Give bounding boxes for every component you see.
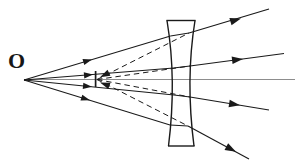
emergent-ray-1: [189, 9, 269, 33]
incident-ray-2-arrowhead: [84, 72, 93, 79]
incident-ray-1: [24, 36, 171, 80]
object-point-label: O: [8, 50, 25, 72]
incident-ray-3-arrowhead: [83, 83, 93, 90]
emergent-ray-4-arrowhead: [225, 143, 238, 155]
emergent-rays-group: [188, 9, 284, 159]
emergent-ray-1-arrowhead: [229, 15, 242, 25]
emergent-ray-4: [188, 126, 249, 159]
virtual-ray-4: [97, 80, 188, 127]
incident-ray-4: [24, 80, 170, 125]
ray-diagram-canvas: [0, 0, 295, 161]
incident-ray-3: [24, 80, 174, 95]
incident-ray-1-arrowhead: [82, 57, 92, 66]
emergent-ray-3-arrowhead: [229, 100, 241, 109]
lens-internal-ray-4: [170, 125, 188, 126]
incident-ray-4-arrowhead: [80, 95, 90, 104]
lens-left-surface: [167, 21, 172, 147]
ray-diagram-figure: O: [0, 0, 295, 161]
lens-internal-ray-1: [171, 33, 190, 36]
